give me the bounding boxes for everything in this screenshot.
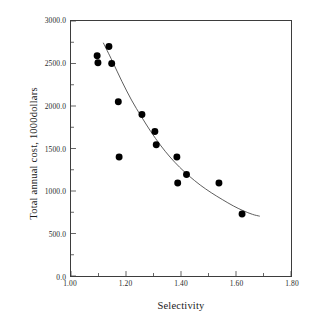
data-point (239, 210, 246, 217)
x-tick-label: 1.40 (174, 279, 188, 288)
data-point (138, 111, 145, 118)
axis-ticks (71, 21, 291, 276)
data-point (115, 98, 122, 105)
x-tick-label: 1.00 (63, 279, 77, 288)
data-point (108, 60, 115, 67)
y-tick-label: 1000.0 (45, 187, 66, 196)
y-tick-label: 3000.0 (45, 16, 66, 25)
x-axis-title: Selectivity (70, 300, 292, 311)
y-tick-label: 2500.0 (45, 58, 66, 67)
data-point (94, 52, 101, 59)
y-tick-label: 500.0 (49, 230, 66, 239)
data-point (173, 154, 180, 161)
plot-area (70, 20, 292, 277)
data-point (105, 43, 112, 50)
chart-figure: Total annual cost, 1000dollars 0.0500.01… (0, 0, 317, 332)
y-axis-tick-labels: 0.0500.01000.01500.02000.02500.03000.0 (30, 20, 66, 277)
y-tick-label: 2000.0 (45, 101, 66, 110)
x-tick-label: 1.60 (230, 279, 244, 288)
y-tick-label: 1500.0 (45, 144, 66, 153)
data-point (215, 179, 222, 186)
data-point (151, 128, 158, 135)
data-point (174, 179, 181, 186)
data-point (94, 59, 101, 66)
trend-line-curve (103, 43, 259, 216)
plot-canvas (71, 21, 291, 276)
x-axis-tick-labels: 1.001.201.401.601.80 (70, 279, 292, 293)
data-point (116, 154, 123, 161)
x-tick-label: 1.80 (285, 279, 299, 288)
data-point (183, 171, 190, 178)
x-tick-label: 1.20 (119, 279, 133, 288)
data-point (153, 141, 160, 148)
